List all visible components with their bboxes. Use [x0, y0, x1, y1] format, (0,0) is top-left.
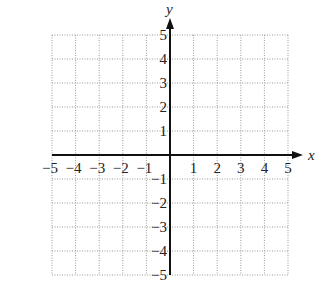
y-axis-label: y — [164, 1, 173, 17]
x-tick-label: −1 — [136, 160, 152, 176]
x-tick-label: 3 — [237, 160, 245, 176]
y-tick-label: −1 — [151, 171, 167, 187]
x-tick-label: 2 — [213, 160, 221, 176]
y-tick-label: 5 — [160, 27, 168, 43]
y-tick-label: −2 — [151, 195, 167, 211]
coordinate-plane: x y −5−4−3−2−112345 −5−4−3−2−112345 — [0, 0, 328, 295]
x-tick-label: −5 — [42, 160, 58, 176]
x-tick-label: 1 — [190, 160, 198, 176]
x-axis-label: x — [307, 147, 315, 163]
y-axis-arrow-icon — [166, 18, 174, 29]
x-tick-label: −4 — [66, 160, 82, 176]
x-tick-label: −2 — [113, 160, 129, 176]
y-tick-label: 2 — [160, 99, 168, 115]
y-tick-label: 3 — [160, 75, 168, 91]
x-tick-label: −3 — [89, 160, 105, 176]
y-tick-label: −4 — [151, 243, 167, 259]
y-tick-label: 4 — [160, 51, 168, 67]
x-tick-label: 5 — [284, 160, 292, 176]
y-tick-label: −3 — [151, 219, 167, 235]
x-axis-arrow-icon — [292, 151, 303, 159]
axes — [52, 18, 303, 275]
x-tick-label: 4 — [261, 160, 269, 176]
y-tick-label: 1 — [160, 123, 168, 139]
y-tick-label: −5 — [151, 267, 167, 283]
